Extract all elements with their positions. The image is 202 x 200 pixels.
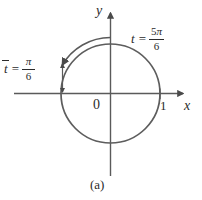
origin-label: 0 [93, 98, 100, 112]
x-tick-label-one: 1 [160, 99, 167, 112]
terminal-angle-variable: t [130, 31, 136, 47]
terminal-angle-annotation: t = 5π 6 [130, 26, 164, 52]
fraction-numerator: 5π [149, 26, 164, 38]
reference-angle-variable-text: t [4, 61, 8, 76]
reference-angle-variable: t [3, 61, 9, 77]
unit-circle-figure: y x 0 1 t = π 6 t = 5π 6 (a) [0, 0, 202, 200]
overbar-glyph [2, 60, 9, 61]
equals-sign: = [12, 61, 19, 77]
figure-canvas [0, 0, 202, 200]
y-axis-label: y [96, 4, 102, 18]
reference-angle-fraction: π 6 [22, 56, 35, 82]
figure-caption: (a) [90, 178, 104, 191]
fraction-denominator: 6 [152, 41, 162, 53]
fraction-numerator-symbol: π [156, 25, 162, 37]
fraction-numerator-symbol: π [26, 55, 32, 67]
terminal-angle-fraction: 5π 6 [149, 26, 164, 52]
reference-angle-annotation: t = π 6 [3, 56, 35, 82]
equals-sign: = [139, 31, 146, 47]
angle-sweep-arc [62, 38, 111, 66]
fraction-denominator: 6 [24, 71, 34, 83]
fraction-numerator: π [24, 56, 34, 68]
terminal-angle-variable-text: t [131, 31, 135, 46]
x-axis-label: x [184, 99, 190, 113]
